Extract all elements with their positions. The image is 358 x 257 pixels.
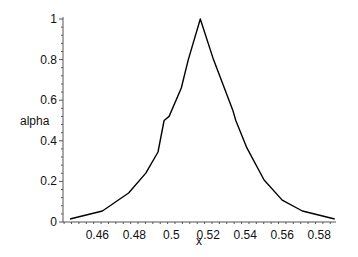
x-axis-label: x xyxy=(196,234,202,248)
x-tick-label: 0.56 xyxy=(271,228,295,242)
y-axis-label: alpha xyxy=(20,114,50,128)
y-tick-label: 0.8 xyxy=(40,53,57,67)
x-tick-label: 0.54 xyxy=(234,228,258,242)
data-series xyxy=(70,19,335,219)
y-tick-label: 0.2 xyxy=(40,174,57,188)
x-tick-label: 0.5 xyxy=(163,228,180,242)
series-line xyxy=(70,19,335,219)
x-tick-label: 0.48 xyxy=(123,228,147,242)
y-tick-label: 0.6 xyxy=(40,93,57,107)
y-tick-label: 1 xyxy=(50,12,57,26)
line-chart: 00.20.40.60.81 0.460.480.50.520.540.560.… xyxy=(0,0,358,257)
y-tick-label: 0.4 xyxy=(40,134,57,148)
x-tick-label: 0.46 xyxy=(86,228,110,242)
x-tick-label: 0.58 xyxy=(308,228,332,242)
y-tick-label: 0 xyxy=(50,215,57,229)
